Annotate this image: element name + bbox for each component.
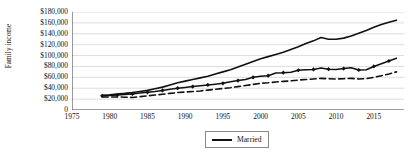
x-axis-tick-label: 1985 — [130, 112, 164, 121]
series-marker — [326, 67, 330, 71]
y-axis-tick-label: $60,000 — [22, 73, 68, 81]
y-axis-tick-label: $100,000 — [22, 52, 68, 60]
x-axis-tick-label: 2010 — [319, 112, 353, 121]
legend-item-label: Married — [237, 135, 261, 144]
x-axis-tick-label: 1980 — [93, 112, 127, 121]
series-marker — [372, 64, 376, 68]
x-axis-tick-labels: 197519801985199019952000200520102015 — [72, 112, 404, 126]
plot-area — [72, 12, 404, 110]
y-axis-tick-label: $40,000 — [22, 84, 68, 92]
legend-line-swatch — [212, 139, 232, 141]
series-marker — [251, 75, 255, 79]
family-income-line-chart: Family income $180,000$160,000$140,000$1… — [0, 0, 419, 156]
x-axis-tick-label: 1975 — [55, 112, 89, 121]
series-marker — [236, 79, 240, 83]
y-axis-tick-label: $180,000 — [22, 8, 68, 16]
x-axis-tick-label: 2005 — [281, 112, 315, 121]
x-axis-tick-label: 2015 — [357, 112, 391, 121]
series-marker — [206, 83, 210, 87]
series-line — [102, 20, 396, 95]
plot-svg — [72, 12, 404, 110]
series-marker — [176, 86, 180, 90]
y-axis-tick-labels: $180,000$160,000$140,000$120,000$100,000… — [20, 0, 68, 156]
y-axis-tick-label: $120,000 — [22, 41, 68, 49]
x-axis-tick-label: 1995 — [206, 112, 240, 121]
y-axis-tick-label: $20,000 — [22, 95, 68, 103]
x-axis-tick-label: 2000 — [244, 112, 278, 121]
series-marker — [281, 71, 285, 75]
series-line — [102, 72, 396, 98]
chart-legend: Married — [205, 131, 269, 148]
y-axis-title: Family income — [5, 6, 13, 86]
x-axis-tick-label: 1990 — [168, 112, 202, 121]
y-axis-tick-label: $160,000 — [22, 19, 68, 27]
series-marker — [221, 81, 225, 85]
series-marker — [387, 59, 391, 63]
y-axis-tick-label: $80,000 — [22, 62, 68, 70]
y-axis-tick-label: $140,000 — [22, 30, 68, 38]
series-marker — [296, 68, 300, 72]
series-marker — [311, 67, 315, 71]
series-marker — [342, 67, 346, 71]
series-marker — [160, 88, 164, 92]
series-marker — [357, 68, 361, 72]
